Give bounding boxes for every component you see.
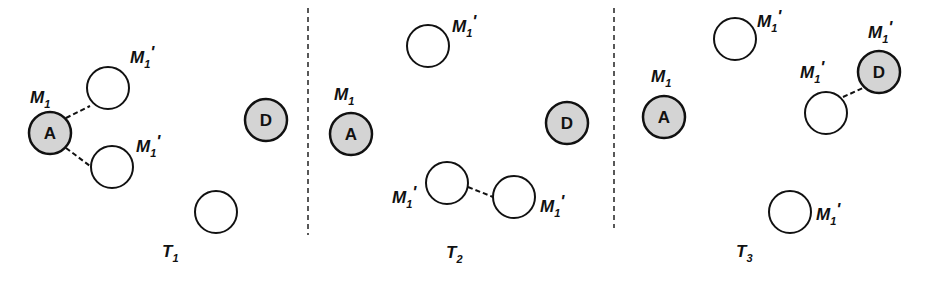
link-edge: [66, 148, 90, 166]
node-d-label: D: [561, 114, 573, 133]
node-a-label: A: [44, 124, 56, 143]
node-m1-prime: [407, 25, 449, 67]
node-d-label: D: [873, 63, 885, 82]
panel-title-t1: T1: [162, 242, 179, 264]
label-m1-prime: M1': [757, 7, 782, 34]
panel-t2: M1' A M1 D M1' M1' T2: [330, 12, 588, 265]
link-edge: [843, 88, 863, 97]
label-m1-prime: M1': [816, 200, 841, 227]
node-m1-prime: [714, 18, 756, 60]
node-m1-prime: [91, 146, 133, 188]
node-m1-prime: [805, 92, 847, 134]
label-m1-prime: M1': [868, 18, 893, 45]
node-a-label: A: [345, 125, 357, 144]
label-m1-prime: M1': [392, 183, 417, 210]
label-m1-prime: M1': [452, 12, 477, 39]
node-m1-prime: [426, 162, 468, 204]
panel-title-t3: T3: [736, 242, 753, 264]
label-m1: M1: [334, 85, 354, 107]
label-m1: M1: [30, 88, 50, 110]
label-m1-prime: M1': [540, 192, 565, 219]
panel-title-t2: T2: [446, 243, 463, 265]
link-edge: [468, 187, 493, 197]
node-m1-prime: [87, 67, 129, 109]
label-m1-prime: M1': [800, 58, 825, 85]
node-m1-prime: [195, 191, 237, 233]
panel-t1: A M1 M1' M1' D T1: [29, 43, 287, 264]
diagram-canvas: A M1 M1' M1' D T1 M1' A M1 D M1' M1' T2 …: [0, 0, 927, 289]
link-edge: [66, 106, 90, 118]
node-m1-prime: [493, 176, 535, 218]
node-a-label: A: [658, 108, 670, 127]
label-m1: M1: [651, 67, 671, 89]
label-m1-prime: M1': [136, 132, 161, 159]
node-m1-prime: [769, 191, 811, 233]
label-m1-prime: M1': [130, 43, 155, 70]
panel-t3: M1' A M1 D M1' M1' M1' T3: [643, 7, 900, 264]
node-d-label: D: [260, 111, 272, 130]
